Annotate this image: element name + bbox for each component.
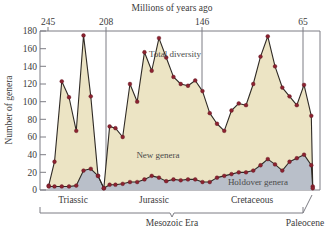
era-bracket: [40, 207, 303, 217]
data-point-marker: [157, 36, 161, 40]
data-point-marker: [244, 170, 248, 174]
data-point-marker: [244, 103, 248, 107]
data-point-marker: [150, 174, 154, 178]
data-point-marker: [259, 163, 263, 167]
y-tick-label: 0: [32, 185, 37, 195]
y-tick-label: 100: [23, 97, 38, 107]
y-tick-label: 40: [28, 150, 38, 160]
y-tick-label: 20: [28, 168, 38, 178]
data-point-marker: [121, 135, 125, 139]
data-point-marker: [150, 69, 154, 73]
data-point-marker: [266, 34, 270, 38]
x-axis-tick-labels: 245 208 146 65: [41, 17, 308, 27]
y-axis-tick-labels: 180 160 140 120 100 80 60 40 20 0: [23, 26, 38, 195]
data-point-marker: [128, 82, 132, 86]
y-axis-title: Number of genera: [4, 75, 14, 145]
chart-canvas: 180 160 140 120 100 80 60 40 20 0 Number…: [0, 0, 335, 231]
data-point-marker: [208, 111, 212, 115]
data-point-marker: [67, 185, 71, 189]
x-tick-label: 65: [298, 17, 308, 27]
data-point-marker: [222, 129, 226, 133]
period-label-triassic: Triassic: [58, 195, 88, 205]
data-point-marker: [266, 157, 270, 161]
data-point-marker: [114, 183, 118, 187]
era-label-mesozoic: Mesozoic Era: [146, 218, 199, 228]
data-point-marker: [82, 34, 86, 38]
y-tick-label: 60: [28, 132, 38, 142]
y-tick-label: 180: [23, 26, 38, 36]
data-point-marker: [74, 184, 78, 188]
data-point-marker: [309, 114, 313, 118]
data-point-marker: [179, 178, 183, 182]
data-point-marker: [135, 100, 139, 104]
data-point-marker: [251, 169, 255, 173]
data-point-marker: [108, 125, 112, 129]
data-point-marker: [295, 103, 299, 107]
y-tick-label: 160: [23, 44, 38, 54]
data-point-marker: [237, 170, 241, 174]
data-point-marker: [215, 176, 219, 180]
data-point-marker: [53, 160, 57, 164]
data-point-marker: [186, 84, 190, 88]
data-point-marker: [311, 186, 315, 190]
data-point-marker: [128, 180, 132, 184]
data-point-marker: [143, 178, 147, 182]
data-point-marker: [208, 180, 212, 184]
data-point-marker: [215, 122, 219, 126]
data-point-marker: [186, 178, 190, 182]
data-point-marker: [135, 180, 139, 184]
data-point-marker: [302, 153, 306, 157]
data-point-marker: [60, 79, 64, 83]
x-tick-label: 208: [99, 17, 114, 27]
data-point-marker: [201, 180, 205, 184]
data-point-marker: [121, 182, 125, 186]
data-point-marker: [60, 185, 64, 189]
data-point-marker: [82, 169, 86, 173]
data-point-marker: [172, 178, 176, 182]
data-point-marker: [295, 156, 299, 160]
paleocene-leader-line: [303, 195, 312, 213]
x-tick-label: 245: [41, 17, 56, 27]
annotation-new-genera: New genera: [136, 150, 179, 160]
data-point-marker: [164, 179, 168, 183]
data-point-marker: [259, 55, 263, 59]
data-point-marker: [288, 160, 292, 164]
data-point-marker: [108, 183, 112, 187]
data-point-marker: [273, 162, 277, 166]
period-label-jurassic: Jurassic: [139, 195, 169, 205]
y-tick-label: 140: [23, 62, 38, 72]
data-point-marker: [201, 89, 205, 93]
data-point-marker: [288, 94, 292, 98]
data-point-marker: [302, 83, 306, 87]
data-point-marker: [67, 95, 71, 99]
data-point-marker: [89, 94, 93, 98]
data-point-marker: [237, 102, 241, 106]
data-point-marker: [143, 50, 147, 54]
data-point-marker: [53, 185, 57, 189]
data-point-marker: [230, 172, 234, 176]
data-point-marker: [102, 186, 106, 190]
data-point-marker: [172, 75, 176, 79]
x-tick-label: 146: [195, 17, 210, 27]
data-point-marker: [222, 174, 226, 178]
period-label-paleocene: Paleocene: [286, 218, 325, 228]
y-tick-label: 120: [23, 79, 38, 89]
data-point-marker: [179, 82, 183, 86]
x-axis-ticks: [48, 27, 303, 31]
data-point-marker: [47, 185, 51, 189]
annotation-holdover-genera: Holdover genera: [228, 177, 288, 187]
annotation-total-diversity: Total diversity: [149, 49, 202, 59]
data-point-marker: [114, 126, 118, 130]
data-point-marker: [309, 163, 313, 167]
data-point-marker: [89, 167, 93, 171]
data-point-marker: [193, 79, 197, 83]
data-point-marker: [280, 169, 284, 173]
x-axis-title: Millions of years ago: [131, 3, 212, 13]
y-tick-label: 80: [28, 115, 38, 125]
data-point-marker: [230, 109, 234, 113]
diversity-chart-figure: 180 160 140 120 100 80 60 40 20 0 Number…: [0, 0, 335, 231]
data-point-marker: [74, 129, 78, 133]
data-point-marker: [280, 86, 284, 90]
data-point-marker: [251, 82, 255, 86]
data-point-marker: [96, 174, 100, 178]
